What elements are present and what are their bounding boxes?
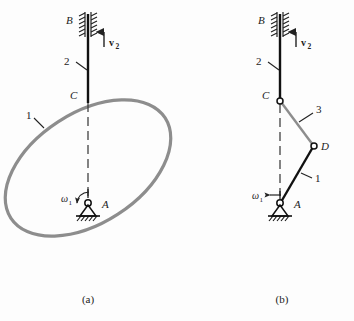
label-point-c: C [70, 89, 78, 101]
label-omega-subscript: 1 [69, 199, 73, 207]
guide-hatch-left-icon [79, 12, 85, 37]
link-3-coupler [281, 102, 313, 145]
joint-c [277, 98, 283, 104]
guide-hatch-left-icon-b [271, 12, 277, 37]
leader-link-1-b [301, 173, 312, 178]
label-point-a: A [101, 198, 109, 210]
panel-a: B v 2 2 C 1 ω 1 [0, 12, 195, 306]
figure-root: B v 2 2 C 1 ω 1 [0, 0, 354, 321]
label-link-1-b: 1 [315, 172, 321, 184]
joint-d [311, 143, 317, 149]
coupler-loop-path-1 [0, 72, 195, 264]
label-omega-subscript-b: 1 [260, 196, 264, 204]
leader-link-3 [299, 113, 313, 122]
label-velocity-v: v [109, 37, 114, 48]
label-link-2-b: 2 [256, 55, 262, 67]
label-velocity-subscript-b: 2 [308, 42, 312, 51]
caption-panel-b: (b) [276, 293, 289, 306]
leader-link-2 [76, 62, 87, 70]
guide-hatch-right-icon-b [283, 12, 289, 37]
label-velocity-v-b: v [301, 37, 306, 48]
panel-b: B v 2 2 C D 3 1 [252, 12, 329, 306]
label-velocity-subscript: 2 [116, 42, 120, 51]
caption-panel-a: (a) [82, 293, 95, 306]
label-point-b: B [66, 14, 73, 26]
leader-link-1 [34, 118, 44, 128]
label-link-2: 2 [64, 55, 70, 67]
label-link-3: 3 [316, 103, 322, 115]
link-1-crank [281, 147, 313, 202]
guide-hatch-right-icon [91, 12, 97, 37]
label-omega-b: ω [252, 190, 259, 201]
label-point-d: D [320, 140, 329, 152]
label-link-1: 1 [26, 109, 32, 121]
label-point-c-b: C [262, 89, 270, 101]
mechanism-figure-canvas: B v 2 2 C 1 ω 1 [0, 0, 354, 321]
label-point-a-b: A [293, 198, 301, 210]
label-point-b-b: B [258, 14, 265, 26]
leader-link-2-b [268, 62, 279, 70]
label-omega: ω [61, 193, 68, 204]
